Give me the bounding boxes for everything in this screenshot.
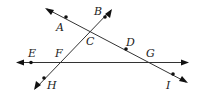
label-b: B — [93, 5, 102, 18]
geometry-diagram: A B C D E F G H I — [0, 0, 197, 92]
label-c: C — [86, 35, 95, 48]
line-acdgi — [45, 8, 188, 83]
point-e-dot — [29, 61, 33, 65]
point-i-dot — [171, 72, 175, 76]
point-b-dot — [103, 15, 107, 19]
label-h: H — [46, 79, 57, 92]
label-g: G — [146, 47, 155, 60]
arrowhead-icon — [179, 76, 188, 83]
point-a-dot — [64, 15, 68, 19]
arrowhead-icon — [181, 60, 189, 66]
arrowhead-icon — [34, 81, 41, 90]
arrowhead-icon — [16, 60, 24, 66]
arrowhead-icon — [45, 8, 54, 15]
line-efg — [16, 60, 189, 66]
label-e: E — [27, 47, 36, 60]
label-a: A — [55, 21, 64, 34]
label-f: F — [54, 47, 63, 60]
point-h-dot — [42, 76, 46, 80]
label-i: I — [165, 79, 171, 92]
label-d: D — [125, 36, 135, 49]
